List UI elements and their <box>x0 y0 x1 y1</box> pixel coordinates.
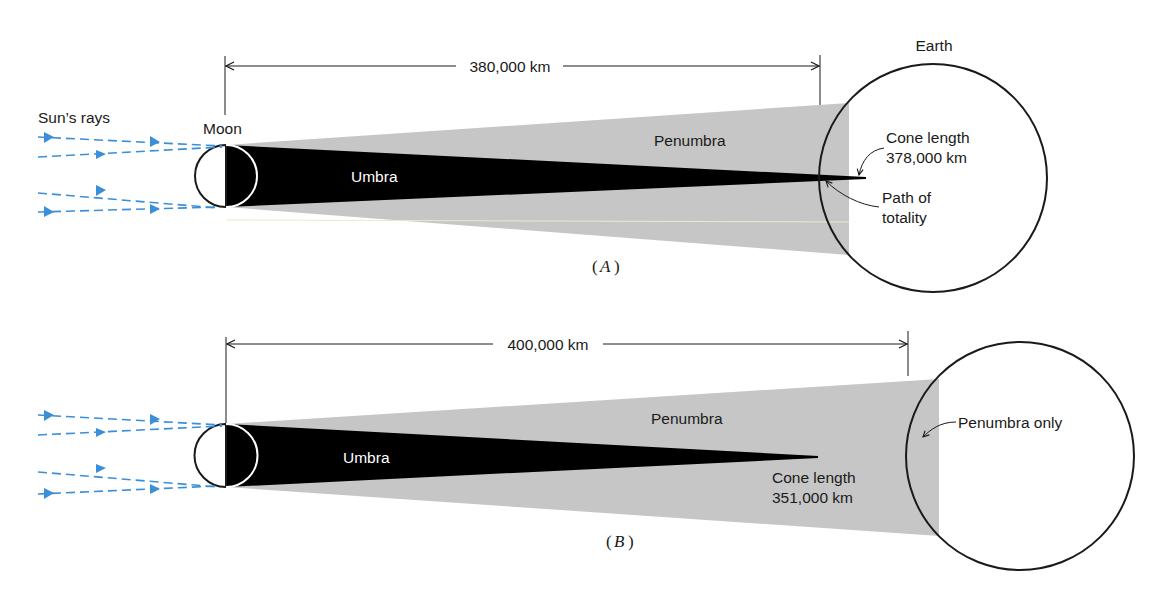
distance-label-a: 380,000 km <box>470 58 551 75</box>
caption-b-close: ) <box>628 532 634 551</box>
penumbra-label-a: Penumbra <box>654 132 726 149</box>
eclipse-diagram: 380,000 km S <box>0 0 1159 593</box>
umbra-label-b: Umbra <box>343 449 390 466</box>
ray-arrowheads-b <box>44 410 160 499</box>
distance-label-b: 400,000 km <box>508 336 589 353</box>
caption-b: B <box>614 532 625 551</box>
penumbra-label-b: Penumbra <box>651 410 723 427</box>
caption-a-open: ( <box>592 257 598 276</box>
umbra-label-a: Umbra <box>351 168 398 185</box>
penumbra-only-label: Penumbra only <box>958 414 1063 431</box>
moon-label: Moon <box>203 120 242 137</box>
cone-length-title-b: Cone length <box>772 469 856 486</box>
cone-length-value-b: 351,000 km <box>772 489 853 506</box>
panel-a: 380,000 km S <box>38 37 1047 292</box>
panel-b: 400,000 km Umbra Penumbra Cone length 35… <box>38 331 1134 570</box>
cone-length-value-a: 378,000 km <box>886 149 967 166</box>
caption-a-close: ) <box>614 257 620 276</box>
sun-rays-label: Sun’s rays <box>38 109 110 126</box>
caption-b-open: ( <box>606 532 612 551</box>
path-of-totality-line1: Path of <box>882 189 932 206</box>
earth-b <box>906 342 1134 570</box>
ray-arrowheads-a <box>44 132 160 217</box>
caption-a: A <box>599 257 611 276</box>
earth-label: Earth <box>915 37 952 54</box>
cone-length-leader-a <box>859 148 884 175</box>
cone-length-title-a: Cone length <box>886 129 970 146</box>
path-of-totality-line2: totality <box>882 209 927 226</box>
